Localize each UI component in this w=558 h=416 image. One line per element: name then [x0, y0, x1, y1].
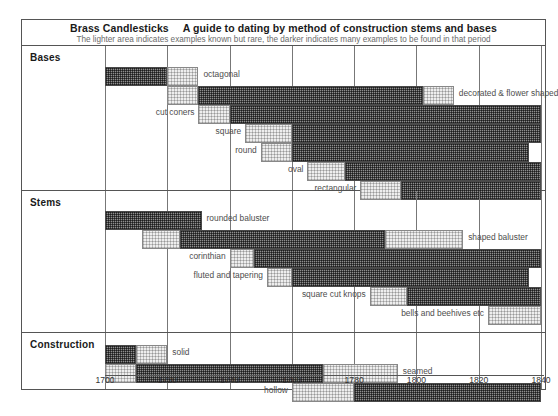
bar-segment-dark	[198, 86, 422, 105]
bar-label: square cut knops	[302, 290, 366, 300]
bar-segment-light	[261, 143, 292, 162]
bar-row: rounded baluster	[105, 211, 545, 230]
bar-label: fluted and tapering	[194, 271, 263, 281]
legend-note: The lighter area indicates examples know…	[22, 35, 545, 44]
bar-row: solid	[105, 345, 545, 364]
bar-segment-light	[307, 162, 344, 181]
group-stems: Stems rounded balustershaped balustercor…	[22, 191, 545, 333]
bar-label: solid	[172, 348, 189, 358]
bar-segment-light	[267, 268, 292, 287]
bar-row: cut coners	[105, 105, 545, 124]
x-tick-1740: 1740	[220, 375, 239, 385]
bar-row: round	[105, 143, 545, 162]
group-bases: Bases octagonaldecorated & flower shaped…	[22, 46, 545, 191]
bar-label: decorated & flower shaped	[459, 89, 558, 99]
bar-row: oval	[105, 162, 545, 181]
bar-segment-dark	[292, 143, 529, 162]
bar-segment-dark	[254, 249, 541, 268]
x-tick-1820: 1820	[469, 375, 488, 385]
x-tick-1780: 1780	[345, 375, 364, 385]
bar-segment-dark	[407, 287, 541, 306]
plot-area-stems: rounded balustershaped balustercorinthia…	[105, 191, 545, 332]
bar-row: octagonal	[105, 67, 545, 86]
bar-segment-dark	[105, 211, 202, 230]
x-tick-1760: 1760	[282, 375, 301, 385]
bar-segment-dark	[230, 105, 541, 124]
bar-segment-dark	[345, 162, 541, 181]
bar-row: decorated & flower shaped	[105, 86, 545, 105]
bar-row: square cut knops	[105, 287, 545, 306]
bar-segment-light	[167, 67, 198, 86]
page-title: Brass Candlesticks	[70, 22, 169, 34]
bar-row: bells and beehives etc	[105, 306, 545, 325]
bar-label: octagonal	[203, 70, 239, 80]
bar-segment-light	[370, 287, 407, 306]
bar-segment-light	[136, 345, 167, 364]
chart-frame: Brass CandlesticksA guide to dating by m…	[21, 19, 546, 390]
bar-label: cut coners	[156, 108, 195, 118]
bar-segment-dark	[180, 230, 386, 249]
x-tick-1840: 1840	[531, 375, 550, 385]
bar-label: round	[235, 146, 256, 156]
plot-area-bases: octagonaldecorated & flower shapedcut co…	[105, 46, 545, 190]
bar-label: square	[216, 127, 242, 137]
group-label-stems: Stems	[30, 197, 61, 208]
group-label-construction: Construction	[30, 339, 95, 350]
chart-title-block: Brass CandlesticksA guide to dating by m…	[22, 20, 545, 46]
bar-segment-dark	[105, 345, 136, 364]
bar-label: rounded baluster	[207, 214, 270, 224]
bar-label: oval	[288, 165, 303, 175]
group-label-bases: Bases	[30, 52, 60, 63]
x-tick-1800: 1800	[407, 375, 426, 385]
bar-segment-light	[167, 86, 198, 105]
bar-label: shaped baluster	[468, 233, 528, 243]
bar-segment-dark	[105, 67, 167, 86]
bar-segment-light	[230, 249, 255, 268]
bar-row: shaped baluster	[105, 230, 545, 249]
bar-segment-light	[488, 306, 541, 325]
bar-row: square	[105, 124, 545, 143]
x-axis: 17001720174017601780180018201840	[105, 375, 545, 388]
bar-segment-light	[385, 230, 463, 249]
bar-segment-dark	[292, 268, 529, 287]
bar-row: fluted and tapering	[105, 268, 545, 287]
x-tick-1720: 1720	[158, 375, 177, 385]
bar-row: corinthian	[105, 249, 545, 268]
title-line: Brass CandlesticksA guide to dating by m…	[22, 22, 545, 34]
page-subtitle-heading: A guide to dating by method of construct…	[183, 22, 497, 34]
bar-label: corinthian	[189, 252, 225, 262]
bar-segment-dark	[292, 124, 541, 143]
x-tick-1700: 1700	[95, 375, 114, 385]
bar-segment-light	[198, 105, 229, 124]
bar-segment-light	[423, 86, 454, 105]
bar-label: bells and beehives etc	[401, 309, 484, 319]
bar-segment-light	[245, 124, 292, 143]
bar-segment-light	[142, 230, 179, 249]
